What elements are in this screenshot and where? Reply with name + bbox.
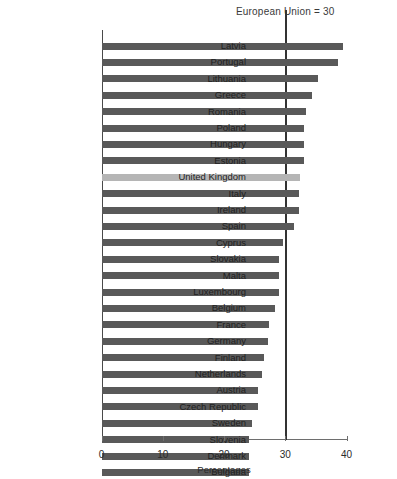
bar-row: Lithuania [102, 71, 347, 87]
category-label: France [150, 317, 246, 333]
category-label: Spain [150, 218, 246, 234]
bar-row: Ireland [102, 202, 347, 218]
bar-row: Finland [102, 350, 347, 366]
category-label: Poland [150, 120, 246, 136]
category-label: Estonia [150, 153, 246, 169]
category-label: Germany [150, 333, 246, 349]
x-tick-label: 0 [99, 449, 105, 460]
category-label: Malta [150, 268, 246, 284]
x-tick [224, 436, 225, 441]
bar-row: Malta [102, 268, 347, 284]
x-tick-label: 20 [218, 449, 229, 460]
bar-row: Slovakia [102, 251, 347, 267]
category-label: Finland [150, 350, 246, 366]
category-label: Slovakia [150, 251, 246, 267]
category-label: Austria [150, 382, 246, 398]
bar-row: Sweden [102, 415, 347, 431]
bar-row: Belgium [102, 300, 347, 316]
bar-row: Greece [102, 87, 347, 103]
category-label: Portugal [150, 54, 246, 70]
plot-area: LatviaPortugalLithuaniaGreeceRomaniaPola… [102, 30, 347, 440]
bar-row: Latvia [102, 38, 347, 54]
bar-chart: European Union = 30 LatviaPortugalLithua… [0, 0, 397, 479]
bar-row: Netherlands [102, 366, 347, 382]
bar-row: Germany [102, 333, 347, 349]
bar-row: Cyprus [102, 235, 347, 251]
bar-row: Estonia [102, 153, 347, 169]
x-axis-title: Percentages [102, 464, 347, 475]
category-label: Ireland [150, 202, 246, 218]
x-tick [347, 436, 348, 441]
category-label: Hungary [150, 136, 246, 152]
bar-row: Portugal [102, 54, 347, 70]
category-label: Luxembourg [150, 284, 246, 300]
bar-row: Poland [102, 120, 347, 136]
bar-rows: LatviaPortugalLithuaniaGreeceRomaniaPola… [102, 30, 347, 440]
bar-row: Romania [102, 104, 347, 120]
category-label: Romania [150, 104, 246, 120]
bar-row: Spain [102, 218, 347, 234]
x-tick [102, 436, 103, 441]
category-label: Czech Republic [150, 399, 246, 415]
bar-row: Luxembourg [102, 284, 347, 300]
x-tick-label: 30 [280, 449, 291, 460]
category-label: Lithuania [150, 71, 246, 87]
category-label: Belgium [150, 300, 246, 316]
bar-row: Austria [102, 382, 347, 398]
category-label: United Kingdom [150, 169, 246, 185]
bar-row: Italy [102, 186, 347, 202]
bar-row: Czech Republic [102, 399, 347, 415]
category-label: Cyprus [150, 235, 246, 251]
bar-row: Hungary [102, 136, 347, 152]
category-label: Netherlands [150, 366, 246, 382]
x-tick [285, 436, 286, 441]
category-label: Slovenia [150, 432, 246, 448]
bar-row: France [102, 317, 347, 333]
x-tick [163, 436, 164, 441]
category-label: Italy [150, 186, 246, 202]
x-tick-label: 40 [341, 449, 352, 460]
category-label: Greece [150, 87, 246, 103]
x-tick-label: 10 [157, 449, 168, 460]
bar-row: United Kingdom [102, 169, 347, 185]
category-label: Latvia [150, 38, 246, 54]
category-label: Sweden [150, 415, 246, 431]
